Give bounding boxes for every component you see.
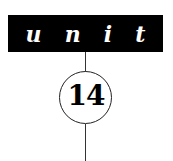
connector-line-top (85, 52, 86, 72)
connector-line-bottom (85, 124, 86, 161)
unit-number: 14 (54, 82, 118, 110)
unit-banner: u n i t (8, 15, 163, 52)
unit-letter-u: u (26, 23, 42, 45)
unit-letter-i: i (104, 23, 112, 45)
unit-letter-t: t (135, 23, 145, 45)
unit-letter-n: n (65, 23, 81, 45)
